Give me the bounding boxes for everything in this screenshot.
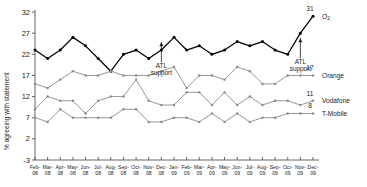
line-chart: -3271217222732 Feb-08Mar-08Apr-08May-08J…	[0, 0, 367, 187]
data-point-orange	[122, 74, 124, 76]
data-point-vodafone	[223, 91, 225, 93]
series-line-orange	[35, 67, 313, 88]
data-point-t-mobile	[135, 108, 137, 110]
data-point-vodafone	[59, 100, 61, 102]
x-tick-label-year: 09	[310, 170, 316, 176]
data-point-vodafone	[148, 100, 150, 102]
data-point-o2	[286, 53, 289, 56]
chart-container: -3271217222732 Feb-08Mar-08Apr-08May-08J…	[0, 0, 367, 187]
data-point-orange	[84, 74, 86, 76]
y-tick-label: 7	[26, 113, 30, 122]
end-value-orange: 17	[306, 64, 314, 71]
data-point-t-mobile	[274, 117, 276, 119]
data-point-vodafone	[97, 100, 99, 102]
data-point-t-mobile	[122, 108, 124, 110]
data-point-orange	[135, 74, 137, 76]
data-point-orange	[173, 66, 175, 68]
x-tick-label-year: 08	[108, 170, 114, 176]
data-point-vodafone	[173, 104, 175, 106]
x-tick-label-year: 08	[146, 170, 152, 176]
series-label-vodafone: Vodafone	[322, 97, 350, 104]
series-label-t-mobile: T-Mobile	[322, 110, 348, 117]
data-point-t-mobile	[110, 117, 112, 119]
data-point-vodafone	[34, 108, 36, 110]
data-point-t-mobile	[287, 112, 289, 114]
data-point-vodafone	[72, 100, 74, 102]
x-tick-label-year: 09	[234, 170, 240, 176]
x-tick-label-year: 08	[133, 170, 139, 176]
series-label-orange: Orange	[322, 72, 344, 80]
data-point-o2	[185, 49, 188, 52]
data-point-vodafone	[211, 104, 213, 106]
data-point-orange	[274, 83, 276, 85]
data-point-o2	[236, 40, 239, 43]
annotations-group: ATLsupportATLsupport	[151, 38, 312, 77]
data-point-vodafone	[110, 95, 112, 97]
series-label-subscript: 2	[327, 16, 330, 21]
x-tick-label-year: 08	[57, 170, 63, 176]
x-tick-label-year: 08	[45, 170, 51, 176]
data-point-orange	[249, 70, 251, 72]
y-tick-label: 12	[22, 92, 30, 101]
end-value-t-mobile: 8	[308, 102, 312, 109]
data-point-t-mobile	[223, 121, 225, 123]
y-tick-label: 17	[22, 71, 30, 80]
data-point-o2	[135, 49, 138, 52]
y-tick-label: 22	[22, 50, 30, 59]
data-point-o2	[84, 44, 87, 47]
x-tick-label-year: 09	[247, 170, 253, 176]
data-point-t-mobile	[198, 121, 200, 123]
data-point-orange	[59, 78, 61, 80]
data-point-t-mobile	[312, 112, 314, 114]
data-point-t-mobile	[185, 117, 187, 119]
series-line-o2	[35, 16, 313, 71]
data-point-orange	[46, 87, 48, 89]
x-tick-label-year: 09	[171, 170, 177, 176]
data-point-orange	[261, 83, 263, 85]
x-tick-label-year: 09	[272, 170, 278, 176]
data-point-vodafone	[84, 112, 86, 114]
data-point-t-mobile	[34, 117, 36, 119]
x-tick-label-year: 09	[260, 170, 266, 176]
x-axis: Feb-08Mar-08Apr-08May-08Jun-08Jul-08Aug-…	[30, 157, 319, 176]
x-tick-label-year: 09	[196, 170, 202, 176]
series-label-text: T-Mobile	[322, 110, 348, 117]
data-point-o2	[173, 36, 176, 39]
x-tick-label-year: 09	[298, 170, 304, 176]
series-line-vodafone	[35, 80, 313, 114]
annotation-label-line2: support	[151, 69, 173, 77]
data-point-t-mobile	[173, 117, 175, 119]
data-point-t-mobile	[211, 112, 213, 114]
data-point-vodafone	[185, 91, 187, 93]
x-tick-label-year: 09	[209, 170, 215, 176]
data-point-orange	[34, 83, 36, 85]
data-point-orange	[287, 74, 289, 76]
annotation-arrow-head	[159, 42, 163, 46]
x-tick-label-year: 08	[83, 170, 89, 176]
series-label-o2: O2	[322, 13, 330, 22]
data-point-vodafone	[249, 95, 251, 97]
x-tick-label-year: 09	[222, 170, 228, 176]
data-point-o2	[97, 57, 100, 60]
data-point-o2	[223, 49, 226, 52]
data-point-o2	[122, 53, 125, 56]
y-axis-title: % agreeing with statement	[3, 72, 11, 150]
series-label-text: Orange	[322, 72, 344, 80]
data-point-o2	[312, 15, 315, 18]
data-point-orange	[236, 66, 238, 68]
data-point-o2	[71, 36, 74, 39]
data-point-vodafone	[46, 95, 48, 97]
data-point-t-mobile	[236, 112, 238, 114]
data-point-orange	[72, 70, 74, 72]
data-point-orange	[198, 74, 200, 76]
data-point-t-mobile	[148, 121, 150, 123]
data-point-t-mobile	[261, 117, 263, 119]
x-tick-label-year: 08	[32, 170, 38, 176]
annotation-arrow-head	[298, 38, 302, 42]
x-tick-label-year: 08	[159, 170, 165, 176]
data-point-vodafone	[122, 95, 124, 97]
data-point-orange	[148, 74, 150, 76]
x-tick-label-year: 08	[70, 170, 76, 176]
data-point-vodafone	[236, 104, 238, 106]
data-point-t-mobile	[299, 112, 301, 114]
